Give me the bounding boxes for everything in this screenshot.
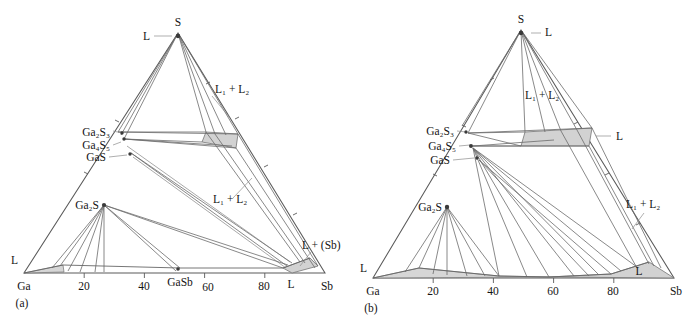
compound-points <box>445 31 523 209</box>
apex-label-s: S <box>175 16 181 28</box>
axis-tick-60: 60 <box>547 285 559 297</box>
region-label-l1l2-lower: L₁ + L₂ <box>213 193 247 205</box>
axis-tick-80: 80 <box>607 285 619 297</box>
compound-label-gasb: GaSb <box>167 276 193 288</box>
panel-b: S L Ga₂S₃ Ga₄S₅ GaS Ga₂S L₁ + L₂ L L₁ + … <box>349 0 698 336</box>
compound-label-ga4s5: Ga₄S₅ <box>82 139 110 151</box>
vertex-label-sb: Sb <box>321 280 333 292</box>
vertex-label-sb: Sb <box>670 285 682 297</box>
compound-label-ga2s3: Ga₂S₃ <box>426 125 454 137</box>
bottom-liquidus-boundary <box>24 258 310 273</box>
edge-ticks <box>84 82 297 215</box>
compound-label-ga2s: Ga₂S <box>418 201 442 213</box>
apex-label-s: S <box>518 13 524 25</box>
compound-label-ga4s5: Ga₄S₅ <box>428 140 456 152</box>
tielines-ga2s-fan <box>52 205 288 272</box>
axis-tick-20: 20 <box>78 280 90 292</box>
region-label-l1l2-central: L₁ + L₂ <box>525 89 559 101</box>
axis-tick-60: 60 <box>202 281 214 293</box>
region-label-liquid-band: L <box>616 130 623 142</box>
bottom-right-liquid-label: L <box>287 278 294 290</box>
axis-tick-20: 20 <box>427 285 439 297</box>
region-label-l1l2-upper: L₁ + L₂ <box>215 83 249 95</box>
region-label-l-plus-sb: L + (Sb) <box>302 239 341 252</box>
panel-tag-a: (a) <box>16 297 29 310</box>
sb-side-shaded-liquid <box>549 262 674 278</box>
axis-tick-40: 40 <box>487 285 499 297</box>
panel-a: S L Ga₂S₃ Ga₄S₅ GaS Ga₂S L₁ + L₂ L₁ + L₂… <box>0 0 349 336</box>
axis-tick-40: 40 <box>138 280 150 292</box>
compound-label-ga2s: Ga₂S <box>75 199 99 211</box>
tielines-gas-fan <box>473 148 637 277</box>
label-leaders <box>109 36 311 266</box>
apex-liquid-label: L <box>143 30 150 42</box>
vertex-label-ga: Ga <box>366 285 379 297</box>
panel-tag-b: (b) <box>364 302 378 315</box>
tielines-gas-fan <box>127 146 292 268</box>
tielines-ga2s-fan <box>405 207 499 276</box>
compound-label-gas: GaS <box>430 154 450 166</box>
axis-tick-80: 80 <box>258 280 270 292</box>
vertex-label-ga: Ga <box>17 280 30 292</box>
bottom-axis-ticks <box>433 278 614 283</box>
panel-a-plot: S L Ga₂S₃ Ga₄S₅ GaS Ga₂S L₁ + L₂ L₁ + L₂… <box>0 0 349 336</box>
compound-label-ga2s3: Ga₂S₃ <box>82 126 110 138</box>
bottom-left-liquid-label: L <box>11 254 18 266</box>
bottom-right-liquid-label: L <box>635 265 642 277</box>
ternary-phase-diagram-figure: S L Ga₂S₃ Ga₄S₅ GaS Ga₂S L₁ + L₂ L₁ + L₂… <box>0 0 698 336</box>
panel-b-plot: S L Ga₂S₃ Ga₄S₅ GaS Ga₂S L₁ + L₂ L L₁ + … <box>349 0 698 336</box>
triangle-outline <box>373 30 674 278</box>
tielines-from-s-apex <box>462 30 592 133</box>
apex-liquid-label: L <box>545 26 552 38</box>
triangle-outline <box>24 33 325 273</box>
bottom-left-liquid-label: L <box>360 262 367 274</box>
compound-label-gas: GaS <box>86 151 106 163</box>
region-label-l1l2-right: L₁ + L₂ <box>626 198 660 210</box>
